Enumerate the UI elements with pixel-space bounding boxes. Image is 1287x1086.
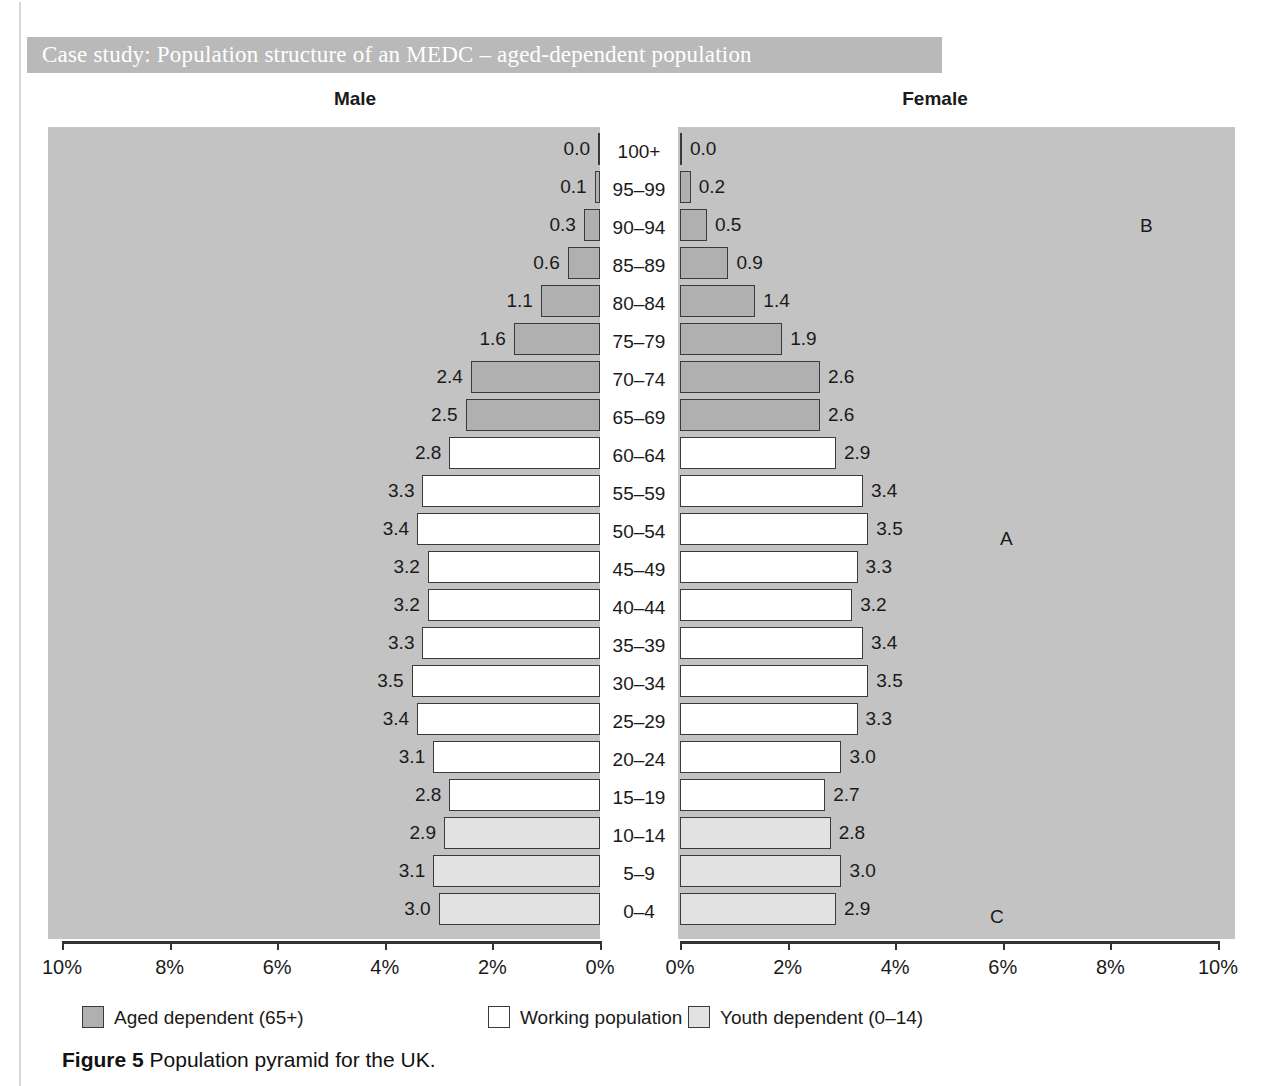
axis-tick-female bbox=[1003, 941, 1005, 950]
legend-label: Working population bbox=[520, 1003, 682, 1033]
axis-tick-label-female: 10% bbox=[1198, 956, 1238, 979]
bar-male-90-94 bbox=[584, 209, 600, 241]
value-label-male: 3.5 bbox=[350, 665, 404, 697]
age-group-label: 40–44 bbox=[600, 589, 678, 627]
value-label-female: 0.2 bbox=[699, 171, 725, 203]
age-group-label: 0–4 bbox=[600, 893, 678, 931]
bar-female-15-19 bbox=[680, 779, 825, 811]
bar-male-35-39 bbox=[422, 627, 600, 659]
region-label-a: A bbox=[1000, 528, 1013, 550]
bar-female-90-94 bbox=[680, 209, 707, 241]
bar-female-55-59 bbox=[680, 475, 863, 507]
bar-female-45-49 bbox=[680, 551, 858, 583]
axis-tick-male bbox=[600, 941, 602, 950]
bar-male-15-19 bbox=[449, 779, 600, 811]
female-column-header: Female bbox=[902, 88, 967, 110]
region-label-b: B bbox=[1140, 215, 1153, 237]
bar-male-60-64 bbox=[449, 437, 600, 469]
value-label-male: 3.1 bbox=[371, 855, 425, 887]
bar-female-35-39 bbox=[680, 627, 863, 659]
value-label-female: 2.8 bbox=[839, 817, 865, 849]
bar-male-50-54 bbox=[417, 513, 600, 545]
page-left-rule bbox=[19, 0, 21, 1086]
value-label-female: 1.9 bbox=[790, 323, 816, 355]
bar-female-50-54 bbox=[680, 513, 868, 545]
value-label-male: 2.4 bbox=[409, 361, 463, 393]
bar-female-80-84 bbox=[680, 285, 755, 317]
bar-female-60-64 bbox=[680, 437, 836, 469]
value-label-female: 2.9 bbox=[844, 893, 870, 925]
age-group-label: 60–64 bbox=[600, 437, 678, 475]
bar-male-70-74 bbox=[471, 361, 600, 393]
age-group-label: 70–74 bbox=[600, 361, 678, 399]
bar-female-100+ bbox=[680, 133, 682, 165]
age-group-label: 55–59 bbox=[600, 475, 678, 513]
age-group-label: 95–99 bbox=[600, 171, 678, 209]
figure-caption: Figure 5 Population pyramid for the UK. bbox=[62, 1048, 436, 1072]
age-group-label: 10–14 bbox=[600, 817, 678, 855]
value-label-female: 2.9 bbox=[844, 437, 870, 469]
age-group-label: 80–84 bbox=[600, 285, 678, 323]
bar-female-40-44 bbox=[680, 589, 852, 621]
value-label-male: 2.8 bbox=[387, 779, 441, 811]
value-label-female: 3.0 bbox=[849, 855, 875, 887]
bar-male-5-9 bbox=[433, 855, 600, 887]
axis-tick-female bbox=[788, 941, 790, 950]
axis-tick-label-male: 4% bbox=[370, 956, 399, 979]
value-label-male: 0.3 bbox=[522, 209, 576, 241]
bar-female-65-69 bbox=[680, 399, 820, 431]
age-group-label: 30–34 bbox=[600, 665, 678, 703]
bar-male-20-24 bbox=[433, 741, 600, 773]
axis-tick-label-male: 0% bbox=[586, 956, 615, 979]
age-group-label: 20–24 bbox=[600, 741, 678, 779]
bar-male-25-29 bbox=[417, 703, 600, 735]
axis-tick-female bbox=[895, 941, 897, 950]
figure-number: Figure 5 bbox=[62, 1048, 144, 1071]
value-label-male: 1.1 bbox=[479, 285, 533, 317]
value-label-male: 3.1 bbox=[371, 741, 425, 773]
axis-line-female bbox=[680, 941, 1218, 944]
male-column-header: Male bbox=[334, 88, 376, 110]
value-label-male: 0.1 bbox=[533, 171, 587, 203]
legend-label: Youth dependent (0–14) bbox=[720, 1003, 923, 1033]
value-label-female: 3.4 bbox=[871, 475, 897, 507]
value-label-male: 3.2 bbox=[366, 589, 420, 621]
age-group-label: 100+ bbox=[600, 133, 678, 171]
bar-male-75-79 bbox=[514, 323, 600, 355]
axis-tick-label-male: 8% bbox=[155, 956, 184, 979]
bar-male-85-89 bbox=[568, 247, 600, 279]
bar-male-40-44 bbox=[428, 589, 600, 621]
axis-tick-female bbox=[680, 941, 682, 950]
page-top-rule bbox=[0, 0, 1287, 2]
legend-swatch-working bbox=[488, 1006, 510, 1028]
value-label-female: 3.3 bbox=[866, 703, 892, 735]
axis-tick-label-female: 2% bbox=[773, 956, 802, 979]
value-label-male: 3.4 bbox=[355, 703, 409, 735]
bar-male-65-69 bbox=[466, 399, 601, 431]
value-label-female: 1.4 bbox=[763, 285, 789, 317]
bar-female-25-29 bbox=[680, 703, 858, 735]
value-label-male: 3.3 bbox=[360, 627, 414, 659]
bar-female-0-4 bbox=[680, 893, 836, 925]
age-group-label: 5–9 bbox=[600, 855, 678, 893]
bar-female-70-74 bbox=[680, 361, 820, 393]
value-label-male: 3.3 bbox=[360, 475, 414, 507]
value-label-female: 2.7 bbox=[833, 779, 859, 811]
bar-female-20-24 bbox=[680, 741, 841, 773]
age-group-label: 75–79 bbox=[600, 323, 678, 361]
region-label-c: C bbox=[990, 906, 1004, 928]
bar-male-55-59 bbox=[422, 475, 600, 507]
legend-swatch-aged bbox=[82, 1006, 104, 1028]
legend-swatch-youth bbox=[688, 1006, 710, 1028]
axis-tick-label-female: 4% bbox=[881, 956, 910, 979]
age-group-label: 85–89 bbox=[600, 247, 678, 285]
value-label-male: 0.6 bbox=[506, 247, 560, 279]
value-label-female: 3.2 bbox=[860, 589, 886, 621]
value-label-male: 3.0 bbox=[377, 893, 431, 925]
value-label-female: 0.0 bbox=[690, 133, 716, 165]
legend-label: Aged dependent (65+) bbox=[114, 1003, 304, 1033]
axis-tick-label-male: 10% bbox=[42, 956, 82, 979]
bar-female-95-99 bbox=[680, 171, 691, 203]
value-label-female: 3.3 bbox=[866, 551, 892, 583]
axis-line-male bbox=[62, 941, 600, 944]
